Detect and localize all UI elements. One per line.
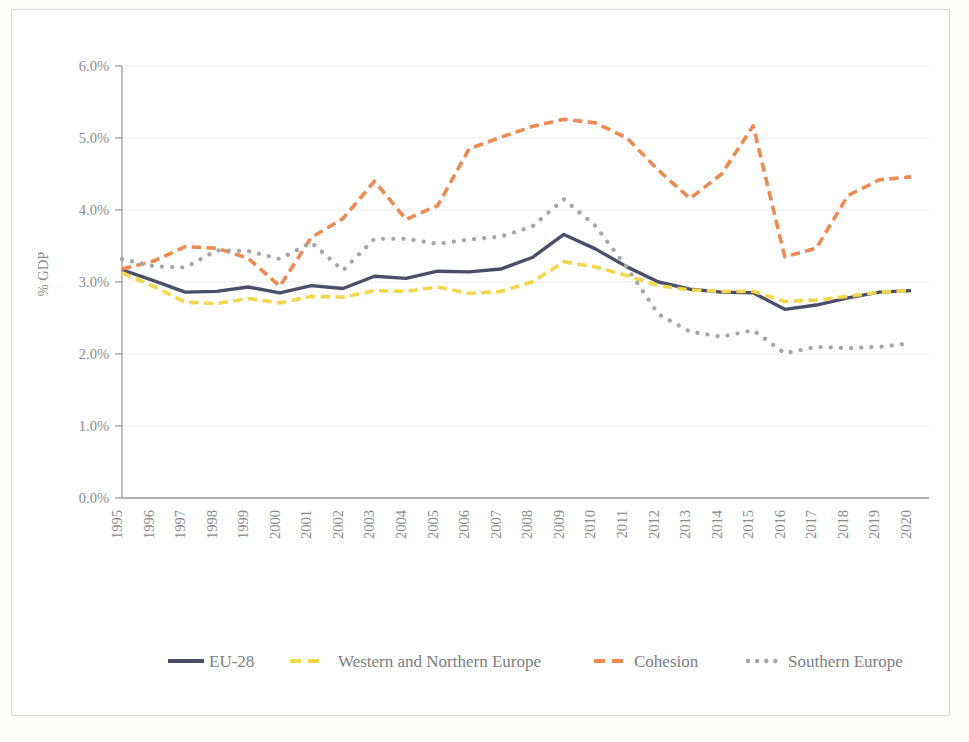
x-tick-label: 2017 bbox=[803, 510, 819, 539]
y-axis-title: % GDP bbox=[35, 252, 51, 297]
series-line-cohesion bbox=[122, 119, 911, 286]
y-tick-label: 5.0% bbox=[79, 130, 109, 146]
y-tick-label: 0.0% bbox=[79, 490, 109, 506]
x-tick-label: 2018 bbox=[835, 510, 851, 539]
x-tick-label: 2005 bbox=[425, 510, 441, 539]
series-line-western-and-northern-europe bbox=[122, 262, 911, 304]
legend-label-western-and-northern-europe: Western and Northern Europe bbox=[338, 652, 541, 671]
x-tick-label: 1998 bbox=[204, 510, 220, 539]
x-tick-label: 2011 bbox=[614, 510, 630, 538]
x-tick-label: 2013 bbox=[677, 510, 693, 539]
legend-label-eu-28: EU-28 bbox=[209, 652, 254, 671]
x-tick-label: 2003 bbox=[361, 510, 377, 539]
series-line-southern-europe bbox=[122, 199, 911, 353]
x-tick-label: 2006 bbox=[456, 510, 472, 539]
x-tick-label: 2016 bbox=[772, 510, 788, 539]
y-tick-labels-group: 0.0%1.0%2.0%3.0%4.0%5.0%6.0% bbox=[79, 58, 109, 506]
x-tick-label: 2007 bbox=[488, 510, 504, 539]
x-tick-label: 2010 bbox=[582, 510, 598, 539]
x-tick-label: 2009 bbox=[551, 510, 567, 539]
x-tick-label: 1995 bbox=[109, 510, 125, 539]
x-tick-label: 2004 bbox=[393, 509, 409, 539]
gridlines-group bbox=[122, 66, 929, 426]
x-tick-label: 2001 bbox=[298, 510, 314, 539]
y-tick-label: 4.0% bbox=[79, 202, 109, 218]
x-tick-label: 2014 bbox=[709, 509, 725, 539]
x-tick-label: 2008 bbox=[519, 510, 535, 539]
y-tick-label: 1.0% bbox=[79, 418, 109, 434]
plot-area-wrapper: 0.0%1.0%2.0%3.0%4.0%5.0%6.0% 19951996199… bbox=[0, 0, 969, 742]
legend-label-southern-europe: Southern Europe bbox=[788, 652, 903, 671]
x-tick-label: 2020 bbox=[898, 510, 914, 539]
data-series-group bbox=[122, 119, 911, 353]
x-tick-label: 2012 bbox=[646, 510, 662, 539]
y-tick-label: 3.0% bbox=[79, 274, 109, 290]
x-tick-label: 1999 bbox=[235, 510, 251, 539]
y-tick-label: 2.0% bbox=[79, 346, 109, 362]
x-tick-label: 1997 bbox=[172, 510, 188, 539]
x-tick-label: 1996 bbox=[141, 510, 157, 539]
legend-label-cohesion: Cohesion bbox=[634, 652, 699, 671]
y-axis-title-group: % GDP bbox=[35, 252, 51, 297]
x-tick-label: 2019 bbox=[866, 510, 882, 539]
x-tick-labels-group: 1995199619971998199920002001200220032004… bbox=[109, 509, 914, 539]
chart-figure: 0.0%1.0%2.0%3.0%4.0%5.0%6.0% 19951996199… bbox=[0, 0, 969, 742]
x-tick-label: 2002 bbox=[330, 510, 346, 539]
y-tick-label: 6.0% bbox=[79, 58, 109, 74]
x-tick-label: 2000 bbox=[267, 510, 283, 539]
legend-group: EU-28Western and Northern EuropeCohesion… bbox=[168, 652, 903, 671]
line-chart: 0.0%1.0%2.0%3.0%4.0%5.0%6.0% 19951996199… bbox=[0, 0, 969, 742]
x-tick-label: 2015 bbox=[740, 510, 756, 539]
